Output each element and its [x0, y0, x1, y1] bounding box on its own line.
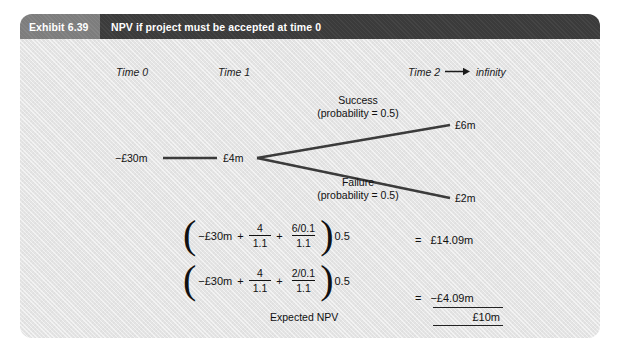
equation-row-failure: ( −£30m + 4 1.1 + 2/0.1 1.1 ) 0.5 — [183, 267, 350, 294]
success-probability: (probability = 0.5) — [288, 107, 428, 120]
exhibit-number-label: Exhibit 6.39 — [20, 14, 100, 39]
eq1-multiplier: 0.5 — [334, 230, 349, 242]
exhibit-header: Exhibit 6.39 NPV if project must be acce… — [20, 14, 600, 39]
eq1-frac1-numerator: 4 — [253, 222, 267, 235]
total-rule-bottom — [433, 325, 503, 326]
eq2-equals-sign: = — [415, 292, 421, 304]
node-failure-value: £2m — [455, 192, 475, 204]
eq2-result-value: −£4.09m — [430, 292, 473, 304]
eq2-multiplier: 0.5 — [334, 275, 349, 287]
success-title: Success — [288, 94, 428, 107]
exhibit-body: Time 0 Time 1 Time 2 infinity −£30m £4m … — [20, 39, 600, 338]
eq2-frac1-numerator: 4 — [253, 267, 267, 280]
total-value: £10m — [433, 308, 503, 325]
eq2-fraction-2: 2/0.1 1.1 — [288, 267, 319, 294]
eq1-equals-sign: = — [415, 234, 421, 246]
eq1-frac2-numerator: 6/0.1 — [288, 222, 319, 235]
equation-expression: −£30m + 4 1.1 + 2/0.1 1.1 — [198, 267, 319, 294]
node-time1-cashflow: £4m — [223, 152, 243, 164]
eq1-fraction-1: 4 1.1 — [249, 222, 272, 249]
eq2-frac2-denominator: 1.1 — [292, 280, 315, 294]
eq1-fraction-2: 6/0.1 1.1 — [288, 222, 319, 249]
branch-label-failure: Failure (probability = 0.5) — [288, 176, 428, 202]
exhibit-title: NPV if project must be accepted at time … — [100, 14, 600, 39]
expected-npv-label: Expected NPV — [270, 311, 338, 323]
failure-title: Failure — [288, 176, 428, 189]
eq1-result-value: £14.09m — [430, 234, 473, 246]
node-success-value: £6m — [455, 119, 475, 131]
equation-row-success: ( −£30m + 4 1.1 + 6/0.1 1.1 ) 0.5 — [183, 222, 350, 249]
eq2-term-initial: −£30m — [198, 275, 232, 287]
equation-result-failure: = −£4.09m — [415, 292, 474, 304]
equation-expression: −£30m + 4 1.1 + 6/0.1 1.1 — [198, 222, 319, 249]
eq1-frac1-denominator: 1.1 — [249, 235, 272, 249]
expected-npv-total: £10m — [433, 307, 503, 326]
eq2-frac1-denominator: 1.1 — [249, 280, 272, 294]
eq2-fraction-1: 4 1.1 — [249, 267, 272, 294]
exhibit-card: Exhibit 6.39 NPV if project must be acce… — [20, 14, 600, 338]
eq1-plus-2: + — [276, 230, 282, 242]
eq2-frac2-numerator: 2/0.1 — [288, 267, 319, 280]
eq1-plus-1: + — [237, 230, 243, 242]
branch-label-success: Success (probability = 0.5) — [288, 94, 428, 120]
node-initial-investment: −£30m — [115, 152, 147, 164]
eq2-plus-2: + — [276, 275, 282, 287]
eq2-plus-1: + — [237, 275, 243, 287]
eq1-term-initial: −£30m — [198, 230, 232, 242]
eq1-frac2-denominator: 1.1 — [292, 235, 315, 249]
equation-result-success: = £14.09m — [415, 234, 473, 246]
failure-probability: (probability = 0.5) — [288, 189, 428, 202]
